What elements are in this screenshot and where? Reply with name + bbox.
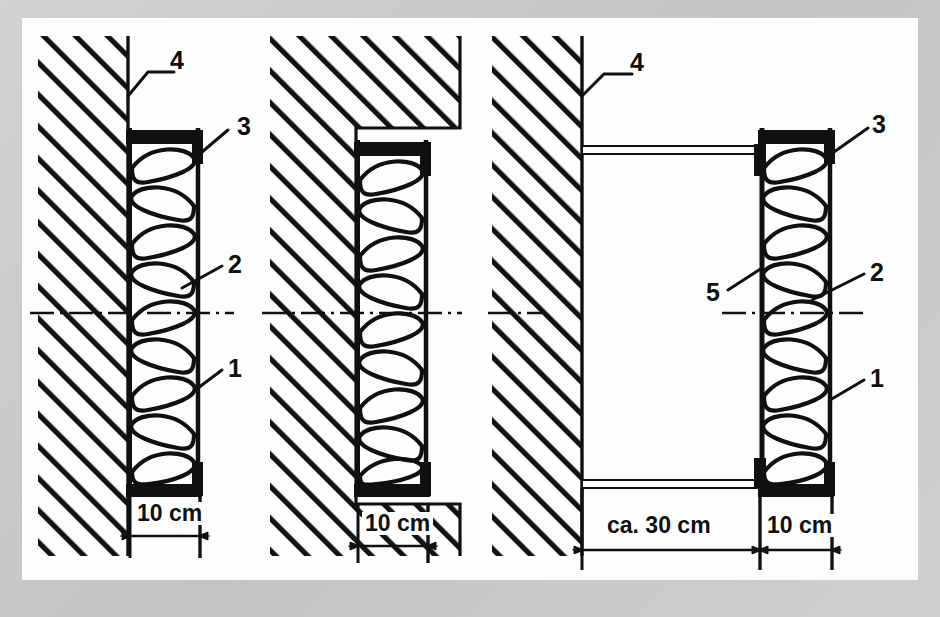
callout-3-right: 3 xyxy=(872,112,886,137)
callout-4-right: 4 xyxy=(630,50,644,75)
drawing-canvas: 4 3 2 1 4 3 5 2 1 10 cm 10 cm ca. 30 cm … xyxy=(22,18,918,580)
radiator-bottom-cap xyxy=(126,484,202,497)
dimension-label-middle: 10 cm xyxy=(362,512,433,535)
dimension-label-right-depth: 10 cm xyxy=(764,514,835,537)
callout-1-right: 1 xyxy=(870,366,884,391)
wall-section-right xyxy=(492,36,582,556)
callout-2-left: 2 xyxy=(228,252,242,277)
wall-section-left xyxy=(38,36,128,556)
panel-surface-mounted xyxy=(30,36,234,558)
radiator-top-cap xyxy=(126,130,202,144)
wall-hatching-left xyxy=(270,36,356,556)
radiator-middle xyxy=(354,140,431,497)
callout-5-right: 5 xyxy=(706,280,720,305)
wall-bracket-arm xyxy=(582,146,760,488)
callout-2-right: 2 xyxy=(870,260,884,285)
figure-frame: 4 3 2 1 4 3 5 2 1 10 cm 10 cm ca. 30 cm … xyxy=(0,0,940,617)
callout-4-left: 4 xyxy=(170,48,184,73)
wall-hatching xyxy=(492,36,582,556)
wall-hatching xyxy=(38,36,128,556)
radiator-bottom-cap xyxy=(758,484,834,497)
dimension-label-left: 10 cm xyxy=(134,502,205,525)
radiator-top-cap xyxy=(354,142,430,156)
dimension-label-right-gap: ca. 30 cm xyxy=(604,514,714,537)
technical-drawing xyxy=(22,18,918,580)
radiator-top-cap xyxy=(758,130,834,144)
callout-1-left: 1 xyxy=(228,356,242,381)
panel-bracket-mounted xyxy=(488,36,868,570)
panel-niche-mounted xyxy=(262,36,462,563)
callout-3-left: 3 xyxy=(237,114,251,139)
